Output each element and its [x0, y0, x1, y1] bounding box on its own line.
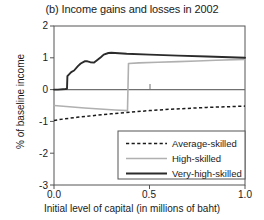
y-tick-label-neg2: -2 — [24, 149, 48, 159]
y-tick-label-0: 0 — [24, 85, 48, 95]
x-tick-label-0: 0.0 — [34, 190, 74, 200]
y-tick-label-2: 2 — [24, 21, 48, 31]
x-axis-label: Initial level of capital (in millions of… — [0, 203, 264, 215]
chart-title: (b) Income gains and losses in 2002 — [0, 2, 264, 16]
legend-label-average-skilled: Average-skilled — [172, 139, 237, 149]
y-tick-label-neg1: -1 — [24, 117, 48, 127]
figure-panel-b: (b) Income gains and losses in 2002 % of… — [0, 0, 264, 220]
legend-label-very-high-skilled: Very-high-skilled — [172, 169, 242, 179]
legend-label-high-skilled: High-skilled — [172, 154, 221, 164]
x-tick-label-0-5: 0.5 — [129, 190, 169, 200]
x-tick-label-1: 1.0 — [225, 190, 264, 200]
y-tick-label-1: 1 — [24, 53, 48, 63]
